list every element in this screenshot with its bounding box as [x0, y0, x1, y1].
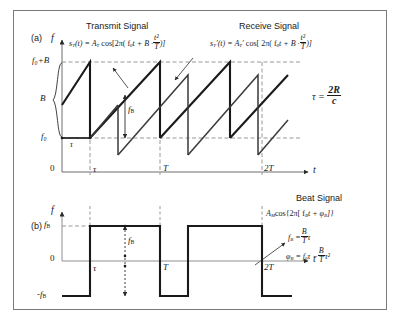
- panel-a-fb-label: fB: [128, 105, 134, 115]
- tick-neg-fB-sub: B: [43, 293, 47, 299]
- panel-b-fb-sub: B: [131, 239, 135, 245]
- transmit-eq-body: (t) = A: [75, 39, 97, 48]
- receive-eq-cos: cos[ 2π( f: [246, 39, 277, 48]
- phi-eq-tail: τ²: [325, 252, 330, 261]
- phi-equation: φB = f0τ −BTτ²: [286, 247, 330, 264]
- tick-tau-a: τ: [93, 165, 96, 174]
- tau-equation: τ = 2Rc: [312, 85, 341, 106]
- tick-f0-plus-B: f₀+B: [32, 56, 49, 65]
- transmit-equation: sT(t) = AT cos[2π( f0t + B ·t²T)]: [69, 34, 165, 51]
- receive-eq-mid: t + B ·: [279, 39, 300, 48]
- transmit-eq-amp-sub: T: [97, 43, 100, 48]
- transmit-eq-cos: cos[2π( f: [101, 39, 130, 48]
- tau-eq-lhs: τ =: [312, 91, 325, 102]
- tick-T-b: T: [163, 263, 168, 272]
- panel-a-tag: (a): [31, 34, 42, 43]
- panel-b-f-axis-label: f: [51, 205, 54, 215]
- transmit-signal-title: Transmit Signal: [86, 22, 148, 31]
- beat-eq-cos: cos{2π[ f: [275, 209, 305, 218]
- tick-f0: f₀: [41, 132, 47, 141]
- tick-2T-a: 2T: [264, 164, 274, 173]
- fb-equation: fB =BTτ: [288, 228, 310, 245]
- tick-neg-fB: -fB: [37, 290, 46, 300]
- fb-eq-f-sub: B: [290, 237, 293, 242]
- tick-zero-b: 0: [50, 254, 55, 263]
- tau-eq-fraction: 2Rc: [327, 85, 341, 106]
- phi-eq-equals: = f: [295, 252, 305, 261]
- receive-eq-amp-prime: ′: [242, 39, 244, 48]
- transmit-eq-tail: )]: [160, 39, 166, 48]
- panel-a-guides: [62, 62, 300, 175]
- panel-b-guides: [62, 206, 262, 226]
- receive-sawtooth: [62, 75, 288, 155]
- panel-a-axes: [62, 40, 308, 172]
- tick-2T-b: 2T: [264, 263, 274, 272]
- tick-fB: fB: [44, 220, 50, 230]
- phi-eq-mid: τ −: [308, 252, 318, 261]
- panel-a-t-axis-label: t: [313, 165, 316, 175]
- receive-eq-body: (t) = A: [218, 39, 240, 48]
- figure-canvas: (a) f t Transmit Signal Receive Signal s…: [0, 0, 401, 330]
- beat-equation: AMcos{2π[ fBt + φB]}: [266, 210, 333, 219]
- panel-a-bandwidth-brace: [53, 63, 62, 137]
- panel-b-tag: (b): [31, 222, 42, 231]
- fb-eq-den: T: [301, 237, 308, 245]
- diagram-graphics: [0, 0, 401, 330]
- fb-eq-tail: τ: [308, 233, 311, 242]
- transmit-eq-fraction: t²T: [153, 34, 160, 51]
- panel-a-fb-sub: B: [131, 108, 135, 114]
- tick-zero-a: 0: [50, 164, 55, 173]
- receive-eq-tail: )]: [306, 39, 312, 48]
- panel-a-f-axis-label: f: [51, 33, 54, 43]
- equation-leader-lines: [113, 58, 285, 265]
- transmit-eq-frac-den: T: [153, 43, 160, 51]
- phi-eq-den: T: [318, 256, 325, 264]
- phi-eq-phi-sub: B: [290, 256, 293, 261]
- beat-eq-mid: t + φ: [308, 209, 324, 218]
- phi-eq-fraction: BT: [318, 247, 325, 264]
- receive-equation: sT′(t) = AT′ cos[ 2π( f0t + B ·t²T)]: [210, 34, 312, 51]
- panel-b-fb-arrow: [124, 225, 127, 296]
- tick-fB-sub: B: [47, 223, 51, 229]
- beat-eq-tail: ]}: [327, 209, 333, 218]
- transmit-eq-mid: t + B ·: [133, 39, 154, 48]
- panel-a-tau-marker: [61, 137, 92, 140]
- tick-T-a: T: [163, 164, 168, 173]
- beat-signal-title: Beat Signal: [296, 194, 342, 203]
- fb-eq-fraction: BT: [301, 228, 308, 245]
- tau-offset-label: τ: [70, 141, 73, 149]
- receive-signal-title: Receive Signal: [239, 22, 299, 31]
- transmit-sawtooth: [62, 62, 288, 138]
- tick-B: B: [40, 94, 46, 103]
- panel-b-fb-label: fB: [128, 236, 134, 246]
- tau-eq-den: c: [327, 96, 341, 106]
- tick-tau-b: τ: [93, 264, 96, 273]
